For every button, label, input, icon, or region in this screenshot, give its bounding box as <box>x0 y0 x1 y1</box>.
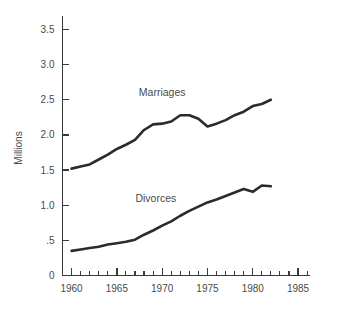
y-tick-label: 3.0 <box>41 59 55 70</box>
y-axis-label-group: 0.51.01.52.02.53.03.5 <box>41 24 55 281</box>
chart-canvas: 0.51.01.52.02.53.03.5 196019651970197519… <box>0 0 355 317</box>
y-axis-title: Millions <box>13 131 24 164</box>
data-series-group <box>72 100 271 251</box>
x-axis-major-tick-group <box>72 268 299 276</box>
series-line-marriages <box>72 100 271 169</box>
y-axis-tick-group <box>63 29 69 240</box>
y-tick-label: 3.5 <box>41 24 55 35</box>
line-chart-figure: 0.51.01.52.02.53.03.5 196019651970197519… <box>0 0 355 317</box>
x-tick-label: 1970 <box>151 283 174 294</box>
y-tick-label: 1.0 <box>41 200 55 211</box>
x-tick-label: 1985 <box>287 283 310 294</box>
series-label-marriages: Marriages <box>139 86 186 98</box>
y-tick-label: 2.5 <box>41 94 55 105</box>
x-tick-label: 1960 <box>60 283 83 294</box>
x-axis-label-group: 196019651970197519801985 <box>60 283 309 294</box>
series-label-divorces: Divorces <box>135 192 176 204</box>
y-tick-label: 0 <box>49 270 55 281</box>
y-tick-label: .5 <box>46 235 55 246</box>
series-inline-label-group: MarriagesDivorces <box>135 86 185 204</box>
plot-axes <box>63 16 311 276</box>
y-tick-label: 1.5 <box>41 165 55 176</box>
x-tick-label: 1980 <box>242 283 265 294</box>
x-tick-label: 1965 <box>106 283 129 294</box>
x-tick-label: 1975 <box>196 283 219 294</box>
y-tick-label: 2.0 <box>41 129 55 140</box>
